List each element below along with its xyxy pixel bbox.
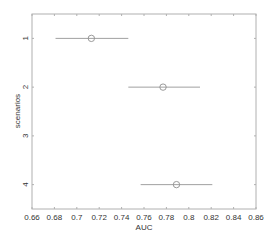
x-tick-label: 0.74: [114, 213, 130, 222]
x-tick-label: 0.78: [159, 213, 175, 222]
x-tick-label: 0.76: [136, 213, 152, 222]
x-tick-label: 0.84: [226, 213, 242, 222]
y-axis-label: scenarios: [13, 94, 22, 128]
plot-frame: [32, 14, 256, 209]
x-tick-label: 0.7: [71, 213, 83, 222]
y-tick-label: 3: [21, 133, 30, 138]
x-tick-label: 0.82: [203, 213, 219, 222]
x-tick-label: 0.66: [24, 213, 40, 222]
auc-errorbar-chart: 0.660.680.70.720.740.760.780.80.820.840.…: [0, 0, 274, 242]
x-tick-label: 0.68: [47, 213, 63, 222]
y-tick-label: 2: [21, 84, 30, 89]
x-tick-label: 0.86: [248, 213, 264, 222]
y-tick-label: 4: [21, 182, 30, 187]
x-axis-label: AUC: [136, 223, 153, 232]
y-tick-label: 1: [21, 36, 30, 41]
x-tick-label: 0.8: [183, 213, 195, 222]
x-tick-label: 0.72: [91, 213, 107, 222]
